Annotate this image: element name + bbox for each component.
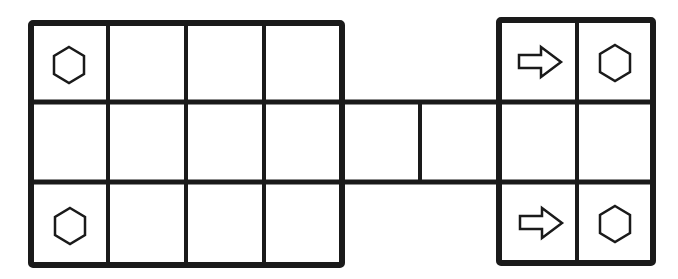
- hexagon-icon: [55, 208, 85, 244]
- grid-diagram: [0, 0, 678, 279]
- hexagon-icon: [54, 47, 84, 83]
- hexagon-icon: [600, 206, 630, 242]
- hexagon-icon: [600, 45, 630, 81]
- arrow-right-icon: [519, 47, 561, 77]
- arrow-right-icon: [520, 208, 562, 238]
